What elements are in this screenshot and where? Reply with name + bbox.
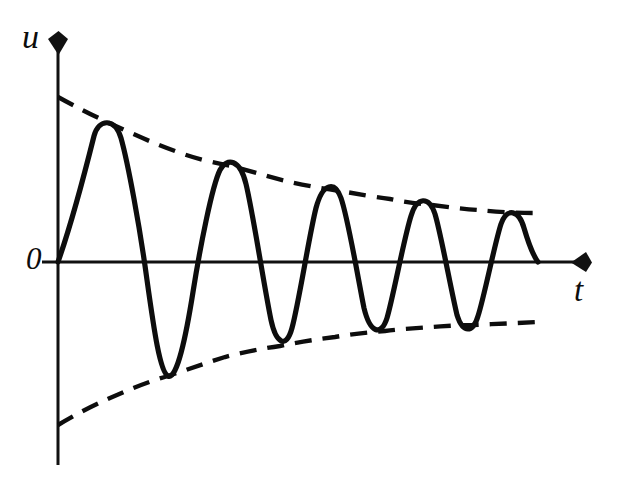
lower-envelope-curve: [58, 322, 537, 425]
vertical-axis-label: u: [22, 20, 39, 54]
up-arrow-icon: [48, 31, 68, 55]
right-arrow-icon: [571, 252, 592, 272]
origin-label: 0: [26, 243, 42, 274]
damped-oscillation-curve: [58, 123, 538, 377]
upper-envelope-curve: [58, 97, 535, 213]
horizontal-axis-label: t: [574, 274, 583, 307]
figure-canvas: [0, 0, 632, 489]
damped-oscillation-figure: u 0 t: [0, 0, 632, 489]
